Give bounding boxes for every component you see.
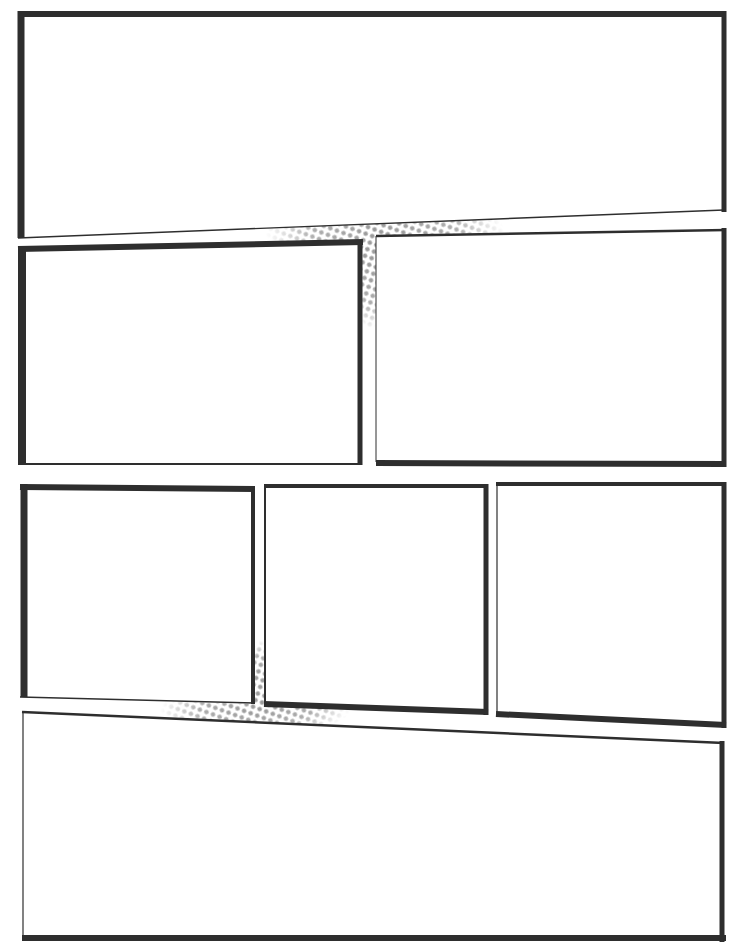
panel-4[interactable] <box>20 484 254 704</box>
panel-layout <box>0 0 738 945</box>
panel-2[interactable] <box>18 240 363 465</box>
panel-7[interactable] <box>22 712 726 942</box>
comic-page <box>0 0 738 945</box>
panel-5[interactable] <box>264 484 488 715</box>
panel-6[interactable] <box>496 482 726 728</box>
panel-3[interactable] <box>376 228 726 467</box>
panel-1[interactable] <box>18 11 724 238</box>
page-header-clip <box>0 0 738 8</box>
